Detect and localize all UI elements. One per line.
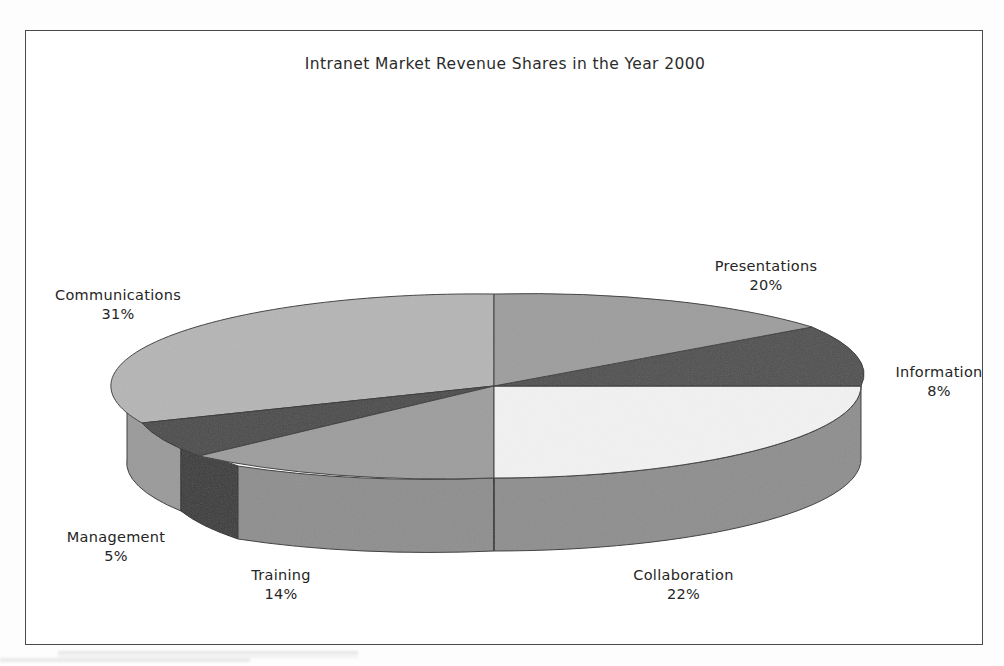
slice-label-communications-percent: 31%: [18, 305, 218, 324]
slice-label-management: Management 5%: [36, 528, 196, 566]
slice-label-collaboration-percent: 22%: [596, 585, 771, 604]
slice-label-information: Information 8%: [864, 363, 1004, 401]
slice-label-presentations-percent: 20%: [681, 276, 851, 295]
slice-label-information-percent: 8%: [864, 382, 1004, 401]
slice-label-training: Training 14%: [211, 566, 351, 604]
slice-label-communications-name: Communications: [18, 286, 218, 305]
slice-label-management-name: Management: [36, 528, 196, 547]
pie-chart: Presentations 20% Information 8% Collabo…: [26, 31, 984, 646]
slice-label-presentations: Presentations 20%: [681, 257, 851, 295]
slice-label-training-percent: 14%: [211, 585, 351, 604]
slice-label-training-name: Training: [211, 566, 351, 585]
slice-label-collaboration: Collaboration 22%: [596, 566, 771, 604]
slice-label-information-name: Information: [864, 363, 1004, 382]
slice-label-presentations-name: Presentations: [681, 257, 851, 276]
scan-artifact-secondary: [0, 658, 250, 662]
slice-label-communications: Communications 31%: [18, 286, 218, 324]
chart-frame: Intranet Market Revenue Shares in the Ye…: [25, 30, 983, 645]
slice-label-management-percent: 5%: [36, 547, 196, 566]
slice-label-collaboration-name: Collaboration: [596, 566, 771, 585]
